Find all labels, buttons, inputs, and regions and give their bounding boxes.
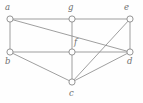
graph-vertex-f bbox=[69, 49, 75, 55]
graph-vertex-g bbox=[69, 16, 75, 22]
graph-edge-a-d bbox=[10, 19, 130, 52]
graph-vertex-e bbox=[127, 16, 133, 22]
vertex-label-f: f bbox=[74, 38, 77, 47]
vertex-label-a: a bbox=[5, 3, 10, 12]
vertex-label-g: g bbox=[68, 3, 73, 12]
vertex-layer bbox=[7, 16, 133, 85]
graph-edge-c-d bbox=[72, 52, 130, 82]
graph-vertex-a bbox=[7, 16, 13, 22]
graph-vertex-d bbox=[127, 49, 133, 55]
graph-figure: agebfdc bbox=[0, 0, 143, 103]
vertex-label-d: d bbox=[127, 57, 132, 66]
vertex-label-e: e bbox=[124, 3, 129, 12]
vertex-label-c: c bbox=[69, 89, 74, 98]
graph-vertex-c bbox=[69, 79, 75, 85]
graph-edge-b-c bbox=[10, 52, 72, 82]
vertex-label-b: b bbox=[5, 57, 10, 66]
graph-edge-c-e bbox=[72, 19, 130, 82]
graph-vertex-b bbox=[7, 49, 13, 55]
